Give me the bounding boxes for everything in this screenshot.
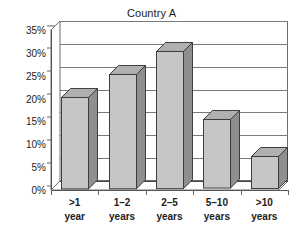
x-axis-label-line2: years bbox=[146, 210, 193, 224]
bar bbox=[251, 158, 278, 190]
bar-3d-faces bbox=[109, 65, 147, 190]
bar bbox=[61, 99, 88, 190]
x-axis-label-line1: >1 bbox=[51, 196, 98, 210]
x-axis-labels: >1year1–2years2–5years5–10years>10years bbox=[51, 196, 298, 238]
x-tick-mark bbox=[146, 190, 147, 195]
y-tick-label: 15% bbox=[8, 116, 46, 127]
bar-3d-faces bbox=[251, 147, 289, 190]
x-axis-label: >1year bbox=[51, 196, 98, 224]
y-tick-label: 10% bbox=[8, 139, 46, 150]
bar bbox=[203, 121, 230, 190]
gridline bbox=[60, 21, 288, 22]
bar bbox=[109, 76, 136, 190]
x-axis-label: 5–10years bbox=[193, 196, 240, 224]
y-axis-line bbox=[51, 30, 52, 190]
y-tick-label: 25% bbox=[8, 70, 46, 81]
y-tick-label: 35% bbox=[8, 25, 46, 36]
y-tick-label: 0% bbox=[8, 185, 46, 196]
x-tick-mark bbox=[241, 190, 242, 195]
x-axis-label: 1–2years bbox=[98, 196, 145, 224]
x-axis-label: >10years bbox=[241, 196, 288, 224]
x-tick-mark bbox=[193, 190, 194, 195]
x-axis-label-line2: years bbox=[98, 210, 145, 224]
x-axis-label-line1: 2–5 bbox=[146, 196, 193, 210]
bar-chart: Country A 0%5%10%15%20%25%30%35% >1year1… bbox=[0, 0, 303, 238]
x-tick-mark bbox=[98, 190, 99, 195]
chart-title: Country A bbox=[0, 7, 303, 19]
y-tick-label: 30% bbox=[8, 47, 46, 58]
x-axis-line bbox=[51, 190, 288, 191]
x-axis-label-line1: 5–10 bbox=[193, 196, 240, 210]
x-tick-mark bbox=[288, 190, 289, 195]
y-tick-label: 5% bbox=[8, 162, 46, 173]
x-axis-label-line2: year bbox=[51, 210, 98, 224]
x-axis-label-line2: years bbox=[241, 210, 288, 224]
x-axis-label-line1: 1–2 bbox=[98, 196, 145, 210]
y-tick-label: 20% bbox=[8, 93, 46, 104]
x-axis-label-line2: years bbox=[193, 210, 240, 224]
bar-3d-faces bbox=[156, 42, 194, 190]
bar bbox=[156, 53, 183, 190]
bar-3d-faces bbox=[203, 110, 241, 190]
plot-area bbox=[51, 30, 288, 190]
x-axis-label: 2–5years bbox=[146, 196, 193, 224]
x-axis-label-line1: >10 bbox=[241, 196, 288, 210]
x-tick-mark bbox=[51, 190, 52, 195]
bar-3d-faces bbox=[61, 88, 99, 190]
